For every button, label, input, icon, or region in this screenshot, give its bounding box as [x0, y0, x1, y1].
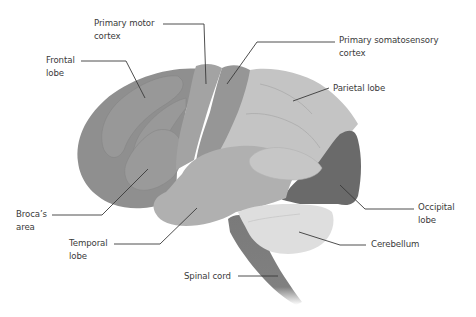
label-frontal-lobe: Frontal lobe: [46, 54, 75, 79]
label-line: lobe: [418, 214, 455, 227]
label-line: Spinal cord: [184, 270, 231, 283]
label-brocas-area: Broca’s area: [16, 208, 47, 233]
label-temporal-lobe: Temporal lobe: [69, 237, 108, 262]
label-line: Frontal: [46, 54, 75, 67]
label-primary-somatosensory-cortex: Primary somatosensory cortex: [339, 34, 438, 59]
label-spinal-cord: Spinal cord: [184, 270, 231, 283]
label-line: Occipital: [418, 201, 455, 214]
label-line: cortex: [339, 47, 438, 60]
label-line: Primary motor: [94, 17, 154, 30]
label-primary-motor-cortex: Primary motor cortex: [94, 17, 154, 42]
label-line: area: [16, 221, 47, 234]
label-line: Parietal lobe: [333, 82, 385, 95]
label-line: Temporal: [69, 237, 108, 250]
label-occipital-lobe: Occipital lobe: [418, 201, 455, 226]
label-cerebellum: Cerebellum: [371, 238, 419, 251]
label-line: Primary somatosensory: [339, 34, 438, 47]
label-line: lobe: [69, 250, 108, 263]
label-line: cortex: [94, 30, 154, 43]
label-parietal-lobe: Parietal lobe: [333, 82, 385, 95]
label-line: Cerebellum: [371, 238, 419, 251]
label-line: lobe: [46, 67, 75, 80]
label-line: Broca’s: [16, 208, 47, 221]
